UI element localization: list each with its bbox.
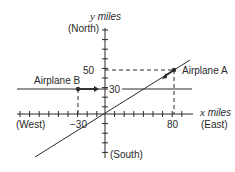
airplane-b-label: Airplane B bbox=[34, 75, 80, 86]
y-axis-var-label: y miles bbox=[89, 10, 121, 22]
x-axis-east-label: (East) bbox=[201, 119, 228, 130]
x-axis-var-label: x miles bbox=[199, 106, 231, 118]
x-axis-west-label: (West) bbox=[16, 119, 45, 130]
tick-label-x80: 80 bbox=[167, 119, 179, 130]
y-axis-south-label: (South) bbox=[110, 149, 143, 160]
airplane-a-label: Airplane A bbox=[182, 65, 228, 76]
tick-label-y30: 30 bbox=[109, 84, 121, 95]
tick-label-y50: 50 bbox=[83, 65, 95, 76]
airplane-b-arrow-icon bbox=[94, 86, 99, 92]
coordinate-diagram: y miles (North) (South) x miles (East) (… bbox=[0, 0, 235, 172]
tick-label-xneg30: −30 bbox=[70, 119, 87, 130]
y-axis-north-label: (North) bbox=[68, 23, 99, 34]
